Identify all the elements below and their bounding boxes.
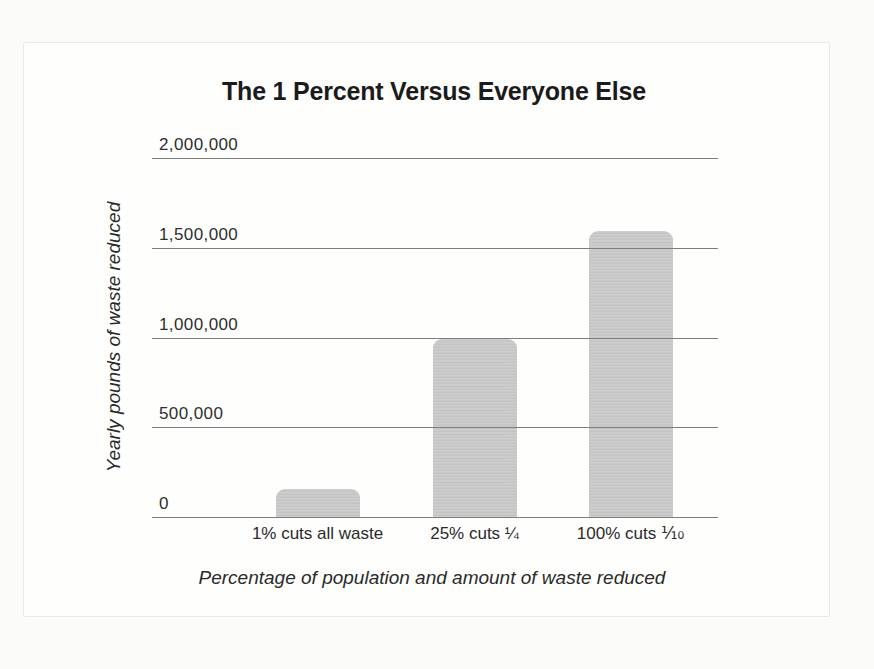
y-tick-label: 1,500,000 (159, 226, 238, 243)
plot-area: 0500,0001,000,0001,500,0002,000,000 (152, 159, 718, 518)
scanned-page: { "figure": { "background": "#fefefd", "… (0, 0, 874, 669)
y-axis-title: Yearly pounds of waste reduced (103, 202, 125, 472)
gridline (152, 517, 718, 518)
chart-title: The 1 Percent Versus Everyone Else (222, 77, 646, 106)
x-tick-label: 1% cuts all waste (252, 524, 383, 544)
gridline (152, 158, 718, 159)
y-tick-label: 0 (159, 495, 169, 512)
gridline (152, 338, 718, 339)
bar (589, 231, 673, 518)
gridline (152, 427, 718, 428)
x-tick-row: 1% cuts all waste25% cuts ¼100% cuts ⅒ (152, 524, 718, 546)
x-tick-label: 100% cuts ⅒ (577, 524, 684, 544)
y-tick-label: 2,000,000 (159, 136, 238, 153)
bar (276, 489, 360, 518)
gridline (152, 248, 718, 249)
x-axis-title: Percentage of population and amount of w… (199, 567, 666, 589)
x-tick-label: 25% cuts ¼ (430, 524, 519, 544)
y-tick-label: 500,000 (159, 405, 223, 422)
chart-figure: The 1 Percent Versus Everyone Else Yearl… (23, 42, 830, 617)
bar (433, 339, 517, 519)
y-tick-label: 1,000,000 (159, 316, 238, 333)
